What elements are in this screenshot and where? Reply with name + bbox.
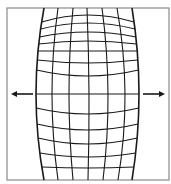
distortion-diagram [0, 0, 171, 184]
